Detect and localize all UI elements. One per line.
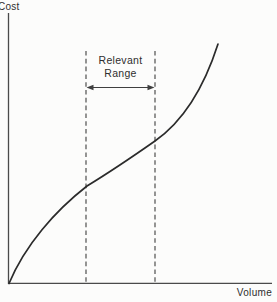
- plot-area: [0, 0, 277, 302]
- y-axis-label: Cost: [0, 1, 19, 12]
- arrow-right-head-icon: [148, 85, 155, 91]
- relevant-range-annotation-line1: Relevant: [86, 54, 155, 67]
- relevant-range-annotation-line2: Range: [86, 67, 155, 80]
- x-axis-label: Volume: [228, 287, 272, 298]
- arrow-left-head-icon: [87, 85, 94, 91]
- relevant-range-annotation: Relevant Range: [86, 54, 155, 80]
- cost-volume-chart: Cost Volume Relevant Range: [0, 0, 277, 302]
